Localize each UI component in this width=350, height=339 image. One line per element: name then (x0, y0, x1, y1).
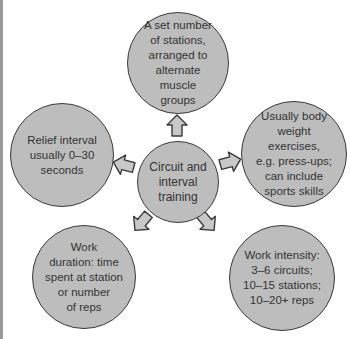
node-text-line: or number (45, 285, 123, 300)
node-work-intensity: Work intensity: 3–6 circuits; 10–15 stat… (229, 225, 335, 331)
arrow-up-icon (167, 115, 187, 136)
node-text-line: of stations, (136, 33, 220, 48)
node-exercises: Usually body weight exercises, e.g. pres… (241, 101, 347, 207)
node-text-line: 10–15 stations; (243, 278, 321, 293)
node-center-circuit-training: Circuit and interval training (137, 141, 219, 223)
node-text-line: arranged to (136, 48, 220, 63)
center-text-line: Circuit and (149, 160, 206, 175)
node-text-line: sports skills (250, 184, 338, 199)
arrow-left-icon (111, 152, 136, 177)
node-text-line: spent at station (45, 270, 123, 285)
arrow-right-icon (218, 149, 243, 174)
node-text-line: Work intensity: (243, 248, 321, 263)
center-text-line: interval (149, 175, 206, 190)
node-text-line: of reps (45, 300, 123, 315)
node-text-line: usually 0–30 (27, 148, 97, 163)
node-text-line: seconds (27, 163, 97, 178)
node-text-line: Usually body (250, 109, 338, 124)
node-text-line: A set number (136, 18, 220, 33)
node-text-line: weight exercises, (250, 124, 338, 154)
node-stations: A set number of stations, arranged to al… (127, 12, 229, 114)
center-text-line: training (149, 190, 206, 205)
node-text-line: Work (45, 240, 123, 255)
node-text-line: can include (250, 169, 338, 184)
node-relief-interval: Relief interval usually 0–30 seconds (10, 103, 114, 207)
node-work-duration: Work duration: time spent at station or … (32, 225, 136, 329)
node-text-line: alternate muscle (136, 63, 220, 93)
node-text-line: 10–20+ reps (243, 293, 321, 308)
node-text-line: groups (136, 93, 220, 108)
node-text-line: duration: time (45, 255, 123, 270)
node-text-line: e.g. press-ups; (250, 154, 338, 169)
node-text-line: Relief interval (27, 133, 97, 148)
node-text-line: 3–6 circuits; (243, 263, 321, 278)
